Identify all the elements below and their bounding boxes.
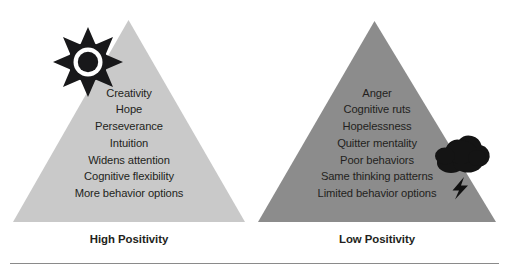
left-pyramid-shape bbox=[13, 20, 245, 222]
positivity-comparison-figure: Creativity Hope Perseverance Intuition W… bbox=[0, 0, 509, 275]
figure-canvas bbox=[0, 0, 509, 275]
sun-icon bbox=[53, 27, 123, 97]
